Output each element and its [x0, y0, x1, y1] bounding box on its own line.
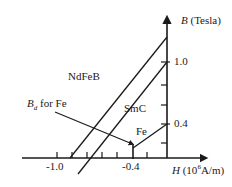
- x-axis-title-symbol: H: [172, 164, 180, 176]
- bh-demagnetization-figure: B (Tesla) 1.0 0.4 H (106A/m) -1.0 -0.4 N…: [0, 0, 232, 187]
- bd-rest: for Fe: [37, 97, 66, 109]
- plot-canvas: [0, 0, 232, 187]
- y-axis-title-symbol: B: [181, 14, 188, 26]
- y-axis-ticks: [161, 62, 170, 143]
- ndfeb-curve: [70, 37, 167, 158]
- x-tick-label-1: -1.0: [46, 161, 63, 172]
- bd-symbol: B: [27, 97, 34, 109]
- y-tick-label-2: 0.4: [174, 118, 188, 129]
- bd-for-fe-leader-line: [55, 112, 130, 143]
- smc-label: SmC: [124, 103, 146, 114]
- ndfeb-label: NdFeB: [68, 71, 100, 82]
- x-axis-title: H (106A/m): [172, 164, 224, 176]
- x-axis: [22, 152, 202, 158]
- x-axis-title-unit-prefix: (10: [183, 164, 198, 176]
- y-axis-title: B (Tesla): [181, 15, 221, 26]
- x-axis-title-unit-suffix: A/m): [201, 164, 224, 176]
- y-axis-title-unit: (Tesla): [190, 14, 220, 26]
- y-tick-label-1: 1.0: [174, 56, 188, 67]
- x-tick-label-2: -0.4: [122, 161, 139, 172]
- bd-for-fe-label: Bd for Fe: [27, 98, 67, 112]
- fe-label: Fe: [136, 126, 147, 137]
